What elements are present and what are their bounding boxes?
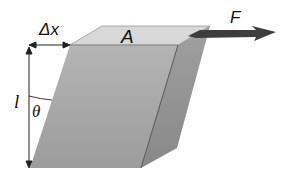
angle-label: θ	[32, 103, 40, 120]
displacement-label: Δx	[39, 21, 59, 38]
area-label: A	[121, 27, 134, 46]
angle-arc	[29, 96, 52, 100]
displacement-dimension	[29, 42, 70, 48]
shear-diagram: Δx A F l θ	[0, 0, 290, 178]
length-label: l	[14, 92, 19, 111]
force-label: F	[230, 9, 240, 26]
